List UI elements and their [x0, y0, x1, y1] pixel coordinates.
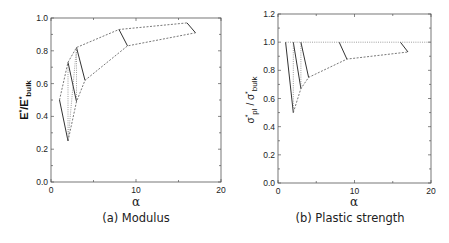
- series-line: [339, 42, 347, 59]
- series-line: [301, 42, 309, 77]
- axis-ticks-b: [278, 14, 431, 183]
- chart-plastic-strength: 0.00.20.40.60.81.01.2 01020 α (b) Plasti…: [244, 9, 436, 225]
- series-line: [293, 52, 408, 113]
- y-tick-label: 0.0: [36, 177, 48, 187]
- series-a: [60, 23, 196, 141]
- x-axis-label-b: α: [350, 195, 358, 209]
- series-line: [293, 42, 301, 88]
- x-tick-label: 10: [131, 185, 141, 195]
- figure: 0.00.20.40.60.81.0 01020 α (a) Modulus E…: [0, 0, 449, 243]
- caption-b: (b) Plastic strength: [295, 211, 404, 225]
- y-tick-label: 0.2: [36, 144, 48, 154]
- y-tick-label: 0.6: [36, 79, 48, 89]
- y-tick-label: 0.4: [36, 111, 48, 121]
- y-tick-labels-a: 0.00.20.40.60.81.0: [36, 13, 48, 187]
- series-line: [60, 23, 188, 100]
- y-tick-label: 1.0: [263, 37, 275, 47]
- y-tick-label: 0.8: [36, 46, 48, 56]
- x-tick-label: 20: [216, 185, 226, 195]
- x-tick-label: 0: [49, 185, 54, 195]
- y-tick-label: 0.4: [263, 122, 275, 132]
- svg-text:E*/E*bulk: E*/E*bulk: [18, 80, 33, 120]
- series-line: [68, 33, 196, 141]
- series-line: [400, 42, 408, 52]
- y-tick-label: 0.2: [263, 150, 275, 160]
- y-tick-labels-b: 0.00.20.40.60.81.01.2: [263, 9, 275, 188]
- svg-text:σ*pl / σ*bulk: σ*pl / σ*bulk: [244, 75, 259, 123]
- caption-a: (a) Modulus: [102, 211, 170, 225]
- y-tick-label: 0.0: [263, 178, 275, 188]
- y-tick-label: 1.0: [36, 13, 48, 23]
- series-b: [286, 42, 431, 112]
- y-tick-label: 1.2: [263, 9, 275, 19]
- x-axis-label-a: α: [132, 195, 140, 209]
- series-line: [286, 42, 294, 112]
- x-tick-labels-a: 01020: [49, 185, 226, 195]
- y-tick-label: 0.8: [263, 65, 275, 75]
- chart-modulus: 0.00.20.40.60.81.0 01020 α (a) Modulus E…: [18, 13, 226, 225]
- y-axis-label-a: E*/E*bulk: [18, 80, 33, 120]
- y-tick-label: 0.6: [263, 94, 275, 104]
- series-line: [187, 23, 196, 33]
- series-line: [60, 100, 69, 141]
- plot-frame-b: [278, 14, 431, 183]
- y-axis-label-b: σ*pl / σ*bulk: [244, 75, 259, 123]
- series-line: [77, 48, 86, 81]
- x-tick-label: 20: [426, 186, 436, 196]
- x-tick-label: 0: [276, 186, 281, 196]
- series-line: [68, 62, 77, 101]
- series-line: [119, 30, 128, 46]
